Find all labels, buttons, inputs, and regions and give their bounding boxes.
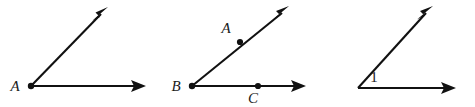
figure-2-group: B A C [171,6,306,106]
figure-2-point-c-label: C [248,90,259,106]
figure-3-angle-number-label: 1 [370,69,378,85]
figure-3-diagonal-ray [358,13,426,88]
figure-sheet: A B A C [0,0,475,107]
figure-1-vertex-dot [28,83,34,89]
figure-2-vertex-dot [189,83,195,89]
figure-3-group: 1 [358,6,456,94]
figure-1-vertex-label: A [9,78,20,94]
figure-2-point-a-label: A [220,20,231,36]
figure-2-vertex-label: B [171,78,180,94]
figure-1-diagonal-ray [31,14,101,86]
figure-2-point-a-dot [237,39,243,45]
figure-2-point-c-dot [255,83,261,89]
angle-diagram-canvas: A B A C [0,0,475,107]
figure-3-diagonal-arrowhead [417,6,433,20]
figure-1-diagonal-arrowhead [93,7,109,21]
figure-2-diagonal-ray [192,13,282,86]
figure-1-group: A [9,7,146,94]
